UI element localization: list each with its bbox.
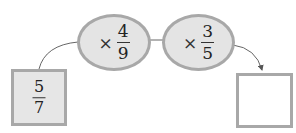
operation-2-numerator: 3	[201, 23, 214, 42]
start-fraction: 5 7	[33, 79, 46, 117]
multiply-icon: ×	[98, 33, 112, 53]
start-denominator: 7	[34, 98, 44, 116]
operation-1-numerator: 4	[117, 23, 130, 42]
operation-2-fraction: 3 5	[201, 23, 214, 63]
answer-box[interactable]	[236, 73, 293, 128]
connector-op2-to-answer	[233, 45, 262, 70]
multiply-icon: ×	[183, 33, 197, 53]
operation-1-fraction: 4 9	[117, 23, 130, 63]
operation-oval-1: × 4 9	[77, 14, 151, 71]
connector-start-to-op1	[39, 42, 78, 69]
operation-1-denominator: 9	[118, 43, 129, 62]
start-numerator: 5	[33, 79, 45, 97]
operation-2-denominator: 5	[202, 43, 213, 62]
operation-oval-2: × 3 5	[162, 14, 235, 71]
start-value-box: 5 7	[11, 69, 67, 126]
